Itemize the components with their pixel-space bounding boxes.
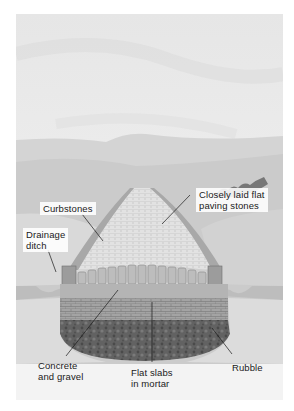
label-paving-stones: Closely laid flat paving stones (196, 188, 268, 212)
label-flat-slabs: Flat slabs in mortar (131, 367, 173, 389)
label-drainage-ditch: Drainage ditch (23, 228, 68, 252)
concrete-gravel-layer (60, 284, 228, 298)
label-rubble: Rubble (232, 362, 263, 373)
label-concrete-gravel: Concrete and gravel (38, 360, 83, 382)
flat-slabs-layer (60, 298, 228, 320)
label-curbstones: Curbstones (40, 202, 96, 215)
